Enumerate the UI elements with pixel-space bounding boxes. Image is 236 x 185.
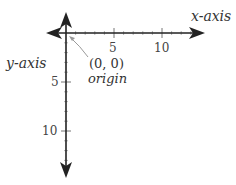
axes-graphic xyxy=(0,0,236,185)
coordinate-diagram: x-axis y-axis 5 10 5 10 (0, 0) origin xyxy=(0,0,236,185)
origin-coords-label: (0, 0) xyxy=(89,57,124,70)
origin-pointer-line xyxy=(71,38,88,57)
x-tick-label-10: 10 xyxy=(154,42,169,54)
y-tick-label-5: 5 xyxy=(51,76,59,88)
y-axis-label: y-axis xyxy=(6,56,47,70)
x-tick-label-5: 5 xyxy=(109,42,117,54)
y-tick-label-10: 10 xyxy=(42,125,57,137)
x-axis-label: x-axis xyxy=(191,9,231,23)
origin-label: origin xyxy=(88,72,127,85)
